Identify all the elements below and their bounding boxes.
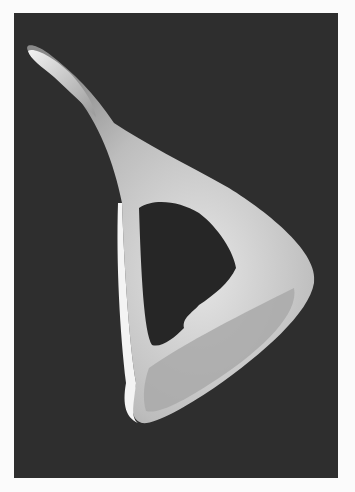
- specimen-illustration: [14, 13, 338, 478]
- micrograph-frame: [14, 13, 338, 478]
- page: [0, 0, 355, 492]
- specimen-stem-highlight: [28, 50, 96, 117]
